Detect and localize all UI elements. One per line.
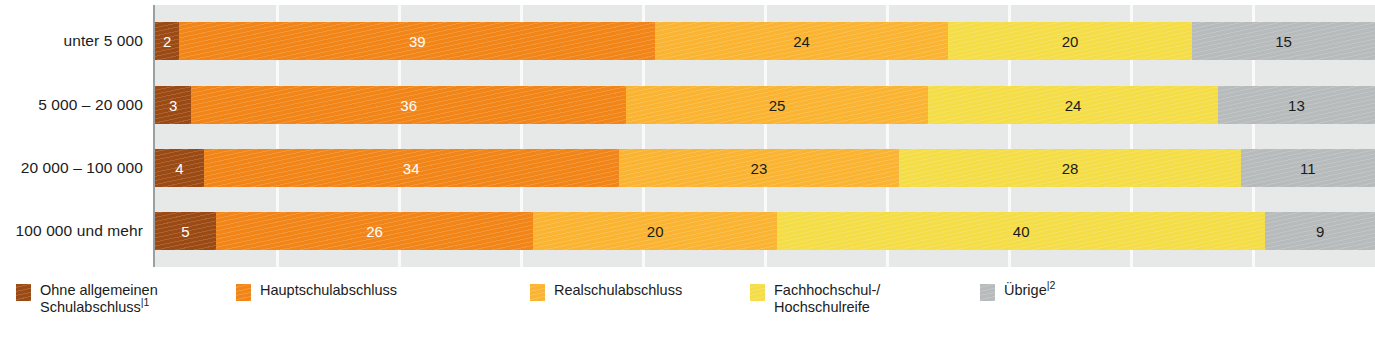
stacked-bar: 336252413 xyxy=(155,86,1375,124)
legend-swatch-icon xyxy=(530,284,545,301)
stacked-bar: 52620409 xyxy=(155,212,1375,250)
bar-segment: 34 xyxy=(204,149,619,187)
bar-row: 20 000 – 100 000434232811 xyxy=(0,149,1375,187)
legend-label: Hauptschulabschluss xyxy=(260,280,397,299)
bar-segment: 24 xyxy=(655,22,948,60)
bar-segment: 5 xyxy=(155,212,216,250)
legend-item[interactable]: Ohne allgemeinenSchulabschluss|1 xyxy=(16,280,158,316)
category-label: unter 5 000 xyxy=(0,22,143,60)
legend-label-line1: Hauptschulabschluss xyxy=(260,282,397,298)
bar-segment: 2 xyxy=(155,22,179,60)
legend-label-line1: Übrige xyxy=(1004,282,1047,298)
legend-footnote-marker: |1 xyxy=(141,296,150,308)
segment-value-label: 40 xyxy=(1013,224,1030,239)
legend-label-line2: Schulabschluss xyxy=(40,299,141,315)
bar-row: unter 5 000239242015 xyxy=(0,22,1375,60)
bar-segment: 39 xyxy=(179,22,655,60)
bar-segment: 4 xyxy=(155,149,204,187)
segment-value-label: 28 xyxy=(1062,161,1079,176)
bar-segment: 40 xyxy=(777,212,1265,250)
legend-swatch-icon xyxy=(750,284,765,301)
segment-value-label: 20 xyxy=(1062,34,1079,49)
segment-value-label: 26 xyxy=(366,224,383,239)
bar-segment: 15 xyxy=(1192,22,1375,60)
bar-segment: 26 xyxy=(216,212,533,250)
segment-value-label: 20 xyxy=(647,224,664,239)
segment-value-label: 11 xyxy=(1300,161,1316,176)
stacked-bar: 239242015 xyxy=(155,22,1375,60)
segment-value-label: 24 xyxy=(1065,98,1082,113)
segment-value-label: 25 xyxy=(769,98,786,113)
legend-swatch-icon xyxy=(236,284,251,301)
legend-item[interactable]: Hauptschulabschluss xyxy=(236,280,397,301)
segment-value-label: 39 xyxy=(409,34,426,49)
segment-value-label: 5 xyxy=(181,224,189,239)
segment-value-label: 36 xyxy=(400,98,417,113)
legend-label-line2: Hochschulreife xyxy=(774,299,870,315)
category-label: 5 000 – 20 000 xyxy=(0,86,143,124)
legend-swatch-icon xyxy=(16,284,31,301)
bar-segment: 20 xyxy=(533,212,777,250)
chart-legend: Ohne allgemeinenSchulabschluss|1Hauptsch… xyxy=(0,280,1375,342)
stacked-bar: 434232811 xyxy=(155,149,1375,187)
legend-swatch-icon xyxy=(980,284,995,301)
segment-value-label: 24 xyxy=(793,34,810,49)
bar-segment: 13 xyxy=(1218,86,1375,124)
stacked-bar-chart: unter 5 0002392420155 000 – 20 000336252… xyxy=(0,0,1375,345)
bar-segment: 25 xyxy=(626,86,928,124)
bar-row: 100 000 und mehr52620409 xyxy=(0,212,1375,250)
bar-segment: 3 xyxy=(155,86,191,124)
bar-segment: 36 xyxy=(191,86,626,124)
bar-segment: 9 xyxy=(1265,212,1375,250)
bar-segment: 11 xyxy=(1241,149,1375,187)
bar-segment: 20 xyxy=(948,22,1192,60)
segment-value-label: 9 xyxy=(1316,224,1324,239)
segment-value-label: 13 xyxy=(1288,98,1305,113)
legend-item[interactable]: Fachhochschul-/Hochschulreife xyxy=(750,280,880,316)
segment-value-label: 23 xyxy=(751,161,768,176)
legend-item[interactable]: Übrige|2 xyxy=(980,280,1055,301)
bar-row: 5 000 – 20 000336252413 xyxy=(0,86,1375,124)
legend-label: Übrige|2 xyxy=(1004,280,1055,299)
segment-value-label: 15 xyxy=(1275,34,1292,49)
bar-segment: 23 xyxy=(619,149,900,187)
legend-label-line1: Fachhochschul-/ xyxy=(774,282,880,298)
legend-label-line1: Realschulabschluss xyxy=(554,282,682,298)
legend-item[interactable]: Realschulabschluss xyxy=(530,280,682,301)
category-label: 100 000 und mehr xyxy=(0,212,143,250)
category-label: 20 000 – 100 000 xyxy=(0,149,143,187)
segment-value-label: 4 xyxy=(175,161,183,176)
bar-segment: 28 xyxy=(899,149,1241,187)
segment-value-label: 3 xyxy=(169,98,177,113)
segment-value-label: 2 xyxy=(163,34,171,49)
legend-footnote-marker: |2 xyxy=(1047,279,1056,291)
legend-label: Fachhochschul-/Hochschulreife xyxy=(774,280,880,316)
legend-label: Ohne allgemeinenSchulabschluss|1 xyxy=(40,280,158,316)
segment-value-label: 34 xyxy=(403,161,420,176)
bar-segment: 24 xyxy=(928,86,1218,124)
legend-label: Realschulabschluss xyxy=(554,280,682,299)
